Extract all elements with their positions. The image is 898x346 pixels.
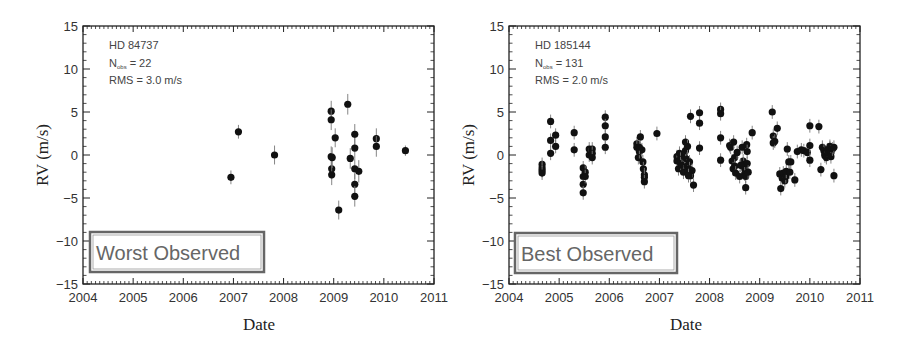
x-tick-label: 2006 — [169, 290, 198, 305]
data-point — [777, 185, 784, 192]
data-point — [743, 141, 750, 148]
x-tick-label: 2004 — [495, 290, 524, 305]
x-tick-label: 2005 — [119, 290, 148, 305]
data-point — [806, 122, 813, 129]
x-tick-label: 2008 — [269, 290, 298, 305]
data-point — [806, 157, 813, 164]
star-name-label: HD 185144 — [535, 39, 591, 51]
panel-worst-observed: HD 84737 Nobs= 22 RMS = 3.0 m/s Worst Ob… — [33, 19, 448, 334]
data-point — [730, 139, 737, 146]
badge-worst-observed: Worst Observed — [96, 242, 240, 264]
data-point — [402, 147, 409, 154]
y-tick-label: −15 — [56, 277, 78, 292]
data-point — [582, 173, 589, 180]
data-point — [744, 160, 751, 167]
data-point — [717, 134, 724, 141]
data-point — [552, 132, 559, 139]
data-point — [784, 145, 791, 152]
data-point — [552, 143, 559, 150]
y-tick-label: 0 — [71, 148, 78, 163]
x-tick-label: 2007 — [645, 290, 674, 305]
data-point — [329, 154, 336, 161]
data-point — [328, 171, 335, 178]
data-point — [538, 169, 545, 176]
x-axis-title: Date — [243, 315, 275, 334]
data-point — [235, 128, 242, 135]
rms-label: RMS = 3.0 m/s — [109, 74, 183, 86]
data-point — [571, 129, 578, 136]
x-tick-label: 2010 — [795, 290, 824, 305]
data-point — [734, 149, 741, 156]
x-tick-label: 2007 — [219, 290, 248, 305]
data-point — [227, 174, 234, 181]
x-tick-label: 2009 — [745, 290, 774, 305]
y-tick-label: −5 — [489, 191, 504, 206]
data-point — [344, 101, 351, 108]
data-point — [637, 133, 644, 140]
data-point — [571, 146, 578, 153]
x-tick-label: 2008 — [695, 290, 724, 305]
data-point — [791, 176, 798, 183]
rv-figure: HD 84737 Nobs= 22 RMS = 3.0 m/s Worst Ob… — [0, 0, 898, 346]
data-point — [639, 158, 646, 165]
data-point — [602, 122, 609, 129]
x-tick-label: 2010 — [369, 290, 398, 305]
y-tick-label: 10 — [64, 62, 78, 77]
data-point — [640, 165, 647, 172]
data-point — [589, 154, 596, 161]
data-point — [774, 125, 781, 132]
data-point — [602, 144, 609, 151]
data-point — [580, 189, 587, 196]
data-point — [736, 173, 743, 180]
x-tick-label: 2005 — [545, 290, 574, 305]
data-point — [547, 150, 554, 157]
x-axis-title: Date — [670, 315, 702, 334]
data-point — [717, 110, 724, 117]
data-point — [717, 157, 724, 164]
data-point — [653, 130, 660, 137]
nobs-label: Nobs= 131 — [535, 57, 583, 70]
y-tick-label: 15 — [490, 19, 504, 34]
badge-best-observed: Best Observed — [521, 243, 653, 265]
y-tick-label: 0 — [497, 148, 504, 163]
data-point — [744, 148, 751, 155]
y-tick-label: −10 — [56, 234, 78, 249]
data-point — [731, 163, 738, 170]
data-point — [685, 172, 692, 179]
data-point — [547, 118, 554, 125]
data-point — [641, 178, 648, 185]
panel-best-observed: HD 185144 Nobs= 131 RMS = 2.0 m/s Best O… — [459, 19, 874, 334]
x-tick-label: 2006 — [595, 290, 624, 305]
data-point — [787, 158, 794, 165]
y-tick-label: −15 — [482, 277, 504, 292]
data-point — [351, 193, 358, 200]
data-point — [335, 206, 342, 213]
y-axis-title: RV (m/s) — [33, 124, 52, 186]
y-tick-label: 15 — [64, 19, 78, 34]
rms-label: RMS = 2.0 m/s — [535, 74, 609, 86]
y-tick-label: −10 — [482, 234, 504, 249]
x-tick-label: 2011 — [420, 290, 448, 305]
y-tick-label: −5 — [63, 191, 78, 206]
x-tick-label: 2011 — [846, 290, 874, 305]
data-point — [817, 166, 824, 173]
data-point — [745, 169, 752, 176]
data-point — [373, 143, 380, 150]
x-tick-label: 2004 — [69, 290, 98, 305]
y-tick-label: 5 — [497, 105, 504, 120]
data-point — [684, 143, 691, 150]
data-point — [737, 162, 744, 169]
data-point — [328, 116, 335, 123]
data-point — [696, 109, 703, 116]
data-point — [827, 153, 834, 160]
x-tick-label: 2009 — [319, 290, 348, 305]
data-point — [687, 113, 694, 120]
data-point — [351, 131, 358, 138]
data-point — [351, 145, 358, 152]
data-point — [332, 134, 339, 141]
data-point — [749, 129, 756, 136]
data-point — [347, 155, 354, 162]
nobs-label: Nobs= 22 — [109, 57, 151, 70]
data-point — [696, 145, 703, 152]
data-point — [786, 169, 793, 176]
